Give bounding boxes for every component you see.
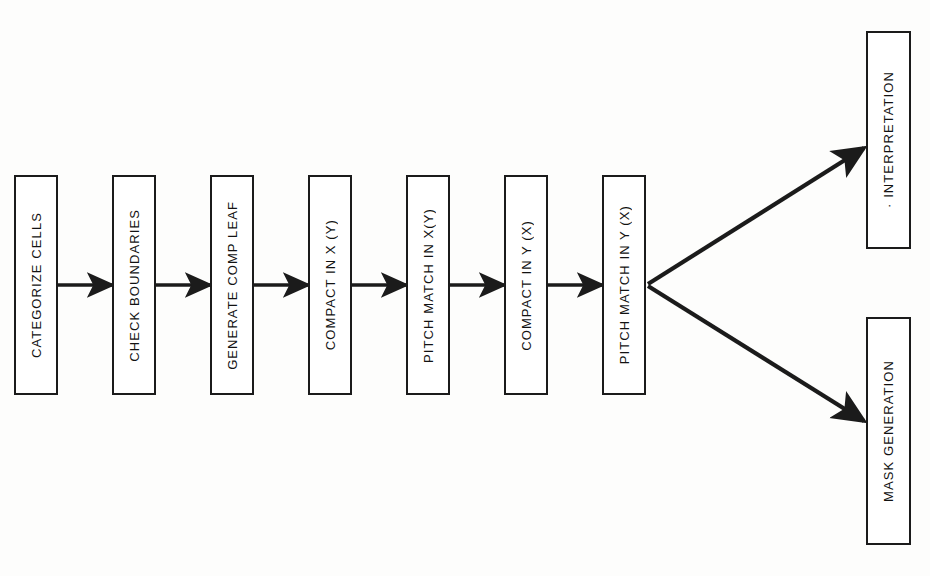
node-label: PITCH MATCH IN Y (X): [618, 205, 631, 364]
node-label: GENERATE COMP LEAF: [226, 201, 239, 370]
node-generate-comp-leaf[interactable]: GENERATE COMP LEAF: [210, 175, 254, 395]
node-categorize-cells[interactable]: CATEGORIZE CELLS: [14, 175, 58, 395]
node-mask-generation[interactable]: MASK GENERATION: [866, 317, 911, 545]
node-check-boundaries[interactable]: CHECK BOUNDARIES: [112, 175, 156, 395]
node-pitch-match-in-x-y[interactable]: PITCH MATCH IN X(Y): [406, 175, 450, 395]
connector-arrow-7-mask-generation: [648, 286, 864, 421]
node-compact-in-x-y[interactable]: COMPACT IN X (Y): [308, 175, 352, 395]
node-interpretation[interactable]: · INTERPRETATION: [866, 31, 911, 249]
node-pitch-match-in-y-x[interactable]: PITCH MATCH IN Y (X): [602, 175, 646, 395]
node-label: CATEGORIZE CELLS: [30, 212, 43, 358]
node-compact-in-y-x[interactable]: COMPACT IN Y (X): [504, 175, 548, 395]
connector-arrow-7-interpretation: [648, 148, 864, 284]
node-label: COMPACT IN X (Y): [324, 219, 337, 350]
node-label: CHECK BOUNDARIES: [128, 209, 141, 362]
node-label: PITCH MATCH IN X(Y): [422, 208, 435, 363]
node-label: · INTERPRETATION: [882, 71, 895, 208]
flow-diagram-canvas: CATEGORIZE CELLS CHECK BOUNDARIES GENERA…: [0, 0, 930, 576]
node-label: COMPACT IN Y (X): [520, 220, 533, 351]
node-label: MASK GENERATION: [882, 360, 895, 502]
